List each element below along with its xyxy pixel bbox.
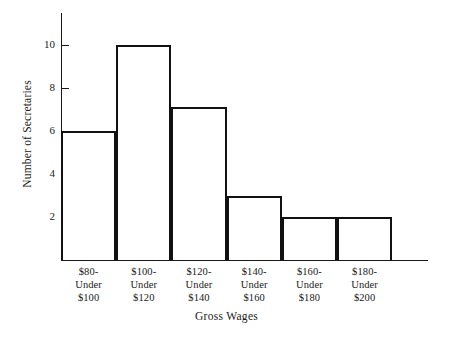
- x-category-line: $180: [282, 291, 337, 304]
- x-category-line: $80-: [61, 265, 116, 278]
- histogram-bar: [282, 217, 337, 260]
- histogram-bar: [227, 196, 282, 261]
- y-tick-label-6: 6: [31, 124, 55, 136]
- histogram-bar: [61, 131, 116, 260]
- x-axis-title: Gross Wages: [61, 310, 392, 322]
- x-category-line: Under: [282, 278, 337, 291]
- y-tick-label-10: 10: [31, 38, 55, 50]
- y-tick-label-8: 8: [31, 81, 55, 93]
- x-category-line: $140-: [227, 265, 282, 278]
- x-category-line: Under: [227, 278, 282, 291]
- x-category-label: $160-Under$180: [282, 265, 337, 305]
- histogram-bar: [337, 217, 392, 260]
- x-category-line: $100: [61, 291, 116, 304]
- x-category-line: $160: [227, 291, 282, 304]
- histogram-bar: [116, 45, 171, 260]
- x-category-line: $120: [116, 291, 171, 304]
- x-category-label: $140-Under$160: [227, 265, 282, 305]
- x-category-line: $200: [337, 291, 392, 304]
- y-tick-label-2: 2: [31, 210, 55, 222]
- x-category-line: Under: [61, 278, 116, 291]
- x-category-line: $180-: [337, 265, 392, 278]
- x-category-line: $140: [171, 291, 226, 304]
- histogram-figure: Number of Secretaries 246810 $80-Under$1…: [0, 0, 449, 342]
- x-category-line: $160-: [282, 265, 337, 278]
- x-category-label: $80-Under$100: [61, 265, 116, 305]
- x-category-line: Under: [337, 278, 392, 291]
- x-category-label: $180-Under$200: [337, 265, 392, 305]
- histogram-bar: [171, 107, 226, 260]
- y-tick-label-4: 4: [31, 167, 55, 179]
- x-category-line: Under: [116, 278, 171, 291]
- x-category-line: $100-: [116, 265, 171, 278]
- x-category-line: Under: [171, 278, 226, 291]
- x-category-line: $120-: [171, 265, 226, 278]
- x-category-label: $100-Under$120: [116, 265, 171, 305]
- x-category-label: $120-Under$140: [171, 265, 226, 305]
